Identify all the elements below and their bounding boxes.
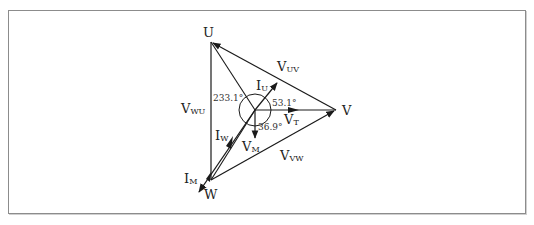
label-v-t: VT — [283, 112, 299, 127]
label-i-w: IW — [215, 128, 229, 143]
label-v-m: VM — [241, 139, 260, 154]
angle-36: 36.9° — [258, 122, 283, 132]
label-u: U — [203, 25, 214, 40]
label-v-vw: VVW — [279, 148, 304, 163]
label-v: V — [341, 103, 352, 118]
phasor-diagram: U V W VUV VWU VVW VT VM IU IW IM 233.1° … — [0, 0, 534, 225]
label-i-u: IU — [256, 78, 268, 93]
angle-53: 53.1° — [272, 98, 297, 108]
label-v-uv: VUV — [276, 59, 299, 74]
label-w: W — [204, 187, 218, 202]
angle-233: 233.1° — [213, 93, 243, 103]
label-v-wu: VWU — [180, 101, 206, 116]
label-i-m: IM — [184, 171, 197, 186]
